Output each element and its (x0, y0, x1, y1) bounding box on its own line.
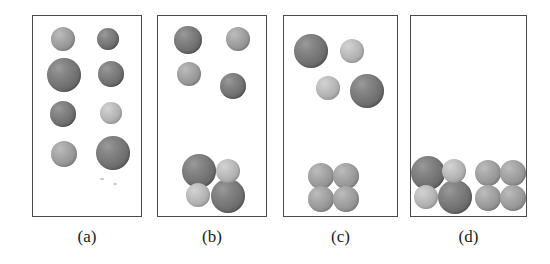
sphere-dark (294, 34, 328, 68)
sphere-light (340, 39, 364, 63)
sphere-dark (97, 28, 119, 50)
panel-label-d: (d) (410, 228, 527, 245)
sphere-dark (220, 73, 246, 99)
sphere-mid (333, 186, 359, 212)
sphere-light (216, 159, 240, 183)
sphere-light (186, 183, 210, 207)
sphere-dark (96, 136, 130, 170)
panel-c (283, 15, 398, 217)
sphere-light (100, 102, 122, 124)
scan-speck (100, 178, 104, 180)
sphere-mid (475, 185, 501, 211)
sphere-dark (50, 101, 76, 127)
sphere-dark (174, 26, 202, 54)
sphere-light (414, 185, 438, 209)
sphere-mid (500, 185, 526, 211)
sphere-mid (500, 160, 526, 186)
sphere-mid (51, 27, 75, 51)
sphere-dark (47, 58, 81, 92)
panel-label-a: (a) (32, 228, 142, 245)
sphere-mid (226, 27, 250, 51)
sphere-dark (98, 61, 124, 87)
sphere-light (442, 159, 466, 183)
panel-label-c: (c) (283, 228, 398, 245)
panel-a (32, 15, 142, 217)
panel-b (157, 15, 267, 217)
sphere-mid (308, 186, 334, 212)
sphere-dark (438, 180, 472, 214)
sphere-dark (350, 74, 384, 108)
panel-d (410, 15, 527, 217)
panel-label-b: (b) (157, 228, 267, 245)
sphere-dark (211, 179, 245, 213)
sphere-light (316, 76, 340, 100)
sphere-packing-figure: (a)(b)(c)(d) (0, 0, 550, 264)
scan-speck (113, 183, 117, 185)
sphere-mid (475, 160, 501, 186)
sphere-mid (51, 141, 77, 167)
sphere-mid (177, 62, 201, 86)
